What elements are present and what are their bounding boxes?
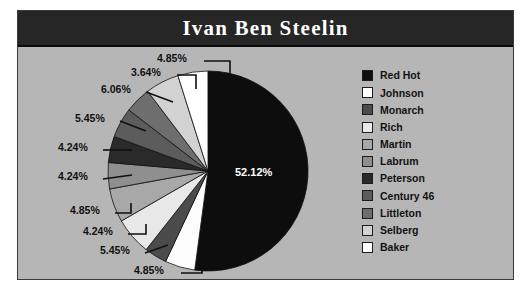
legend-item[interactable]: Labrum bbox=[362, 153, 502, 170]
slice-label-peterson: 4.24% bbox=[58, 171, 88, 182]
slice-label-littleton: 4.24% bbox=[83, 226, 113, 237]
legend-swatch-icon bbox=[362, 104, 373, 115]
legend-item-label: Century 46 bbox=[380, 191, 434, 202]
legend-swatch-icon bbox=[362, 70, 373, 81]
slice-label-monarch: 3.64% bbox=[131, 67, 161, 78]
legend-swatch-icon bbox=[362, 208, 373, 219]
legend-swatch-icon bbox=[362, 190, 373, 201]
legend-item[interactable]: Red Hot bbox=[362, 67, 502, 84]
legend-item-label: Littleton bbox=[380, 208, 421, 219]
slice-label-martin: 5.45% bbox=[75, 113, 105, 124]
legend-swatch-icon bbox=[362, 122, 373, 133]
page-title: Ivan Ben Steelin bbox=[182, 16, 348, 41]
slice-label-rich: 6.06% bbox=[101, 84, 131, 95]
legend-item-label: Selberg bbox=[380, 225, 419, 236]
legend-item-label: Rich bbox=[380, 122, 403, 133]
legend-item[interactable]: Century 46 bbox=[362, 187, 502, 204]
legend-item-label: Red Hot bbox=[380, 70, 420, 81]
legend-swatch-icon bbox=[362, 173, 373, 184]
legend-swatch-icon bbox=[362, 242, 373, 253]
legend-swatch-icon bbox=[362, 225, 373, 236]
slice-label-baker: 4.85% bbox=[134, 265, 164, 276]
slice-label-labrum: 4.24% bbox=[58, 142, 88, 153]
legend-item[interactable]: Selberg bbox=[362, 222, 502, 239]
plot-area: 4.85% 3.64% 6.06% 5.45% 4.24% 4.24% 4.85… bbox=[18, 49, 513, 279]
chart-frame: Ivan Ben Steelin 4.85% 3.64% 6.06% 5.45%… bbox=[17, 10, 514, 280]
legend-item-label: Martin bbox=[380, 139, 412, 150]
legend-item-label: Labrum bbox=[380, 156, 419, 167]
legend-item[interactable]: Peterson bbox=[362, 170, 502, 187]
slice-label-red-hot: 52.12% bbox=[235, 167, 272, 178]
legend-item-label: Monarch bbox=[380, 105, 424, 116]
slice-label-selberg: 5.45% bbox=[100, 245, 130, 256]
legend-item-label: Peterson bbox=[380, 173, 425, 184]
legend-item-label: Johnson bbox=[380, 88, 424, 99]
legend-swatch-icon bbox=[362, 87, 373, 98]
slice-label-century46: 4.85% bbox=[70, 205, 100, 216]
legend: Red HotJohnsonMonarchRichMartinLabrumPet… bbox=[362, 67, 502, 256]
legend-swatch-icon bbox=[362, 139, 373, 150]
legend-item[interactable]: Littleton bbox=[362, 205, 502, 222]
slice-label-johnson: 4.85% bbox=[157, 53, 187, 64]
legend-item[interactable]: Rich bbox=[362, 119, 502, 136]
legend-item[interactable]: Martin bbox=[362, 136, 502, 153]
legend-item[interactable]: Monarch bbox=[362, 101, 502, 118]
legend-item[interactable]: Johnson bbox=[362, 84, 502, 101]
chart-screenshot: Ivan Ben Steelin 4.85% 3.64% 6.06% 5.45%… bbox=[0, 0, 528, 289]
legend-item[interactable]: Baker bbox=[362, 239, 502, 256]
legend-item-label: Baker bbox=[380, 242, 409, 253]
legend-swatch-icon bbox=[362, 156, 373, 167]
title-banner: Ivan Ben Steelin bbox=[18, 11, 513, 47]
